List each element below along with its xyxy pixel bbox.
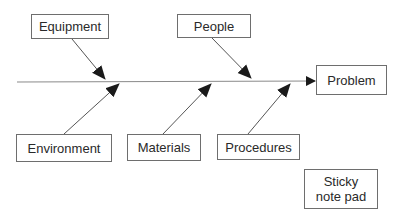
note-line-1: Sticky (324, 174, 359, 189)
cause-label: Equipment (39, 19, 101, 34)
materials-arrow (163, 84, 211, 134)
spine-arrow (17, 81, 315, 82)
cause-label: Environment (28, 141, 101, 156)
cause-label: Materials (138, 140, 191, 155)
cause-box-people: People (177, 14, 251, 38)
sticky-note-box: Sticky note pad (304, 169, 378, 209)
cause-box-equipment: Equipment (31, 14, 109, 39)
cause-label: People (194, 19, 234, 34)
effect-label: Problem (327, 73, 375, 88)
cause-label: Procedures (225, 140, 291, 155)
equipment-arrow (72, 39, 105, 79)
cause-box-environment: Environment (16, 134, 112, 162)
environment-arrow (64, 84, 119, 134)
people-arrow (212, 38, 251, 78)
cause-box-procedures: Procedures (217, 134, 300, 160)
note-line-2: note pad (316, 189, 367, 204)
cause-box-materials: Materials (127, 134, 201, 161)
procedures-arrow (248, 84, 290, 134)
effect-box-problem: Problem (316, 65, 387, 95)
